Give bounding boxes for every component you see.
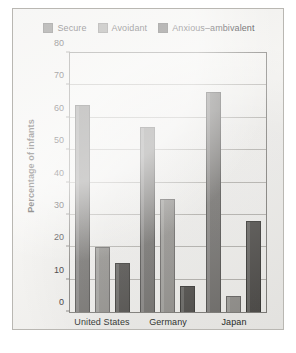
x-axis-label: Germany xyxy=(135,317,201,327)
y-tick-label: 80 xyxy=(54,38,64,48)
y-tick-label: 60 xyxy=(54,103,64,113)
y-tick-label: 20 xyxy=(54,232,64,242)
y-tick-label: 0 xyxy=(59,297,64,307)
legend-label-anxious-ambivalent: Anxious–ambivalent xyxy=(172,23,254,33)
bar xyxy=(206,92,221,312)
legend-swatch-secure xyxy=(43,23,53,33)
legend-swatch-avoidant xyxy=(98,23,108,33)
legend-swatch-anxious-ambivalent xyxy=(158,23,168,33)
chart-legend: Secure Avoidant Anxious–ambivalent xyxy=(13,23,285,33)
legend-label-avoidant: Avoidant xyxy=(112,23,148,33)
bar xyxy=(75,105,90,312)
chart-figure: Secure Avoidant Anxious–ambivalent Perce… xyxy=(12,8,284,330)
x-axis-label: Japan xyxy=(201,317,267,327)
plot-area: 01020304050607080 xyxy=(69,52,267,313)
bar-group xyxy=(70,53,135,312)
legend-item-avoidant: Avoidant xyxy=(98,23,148,33)
x-axis-labels: United StatesGermanyJapan xyxy=(69,317,267,327)
y-tick-label: 30 xyxy=(54,200,64,210)
bar xyxy=(95,247,110,312)
bar-group xyxy=(135,53,200,312)
legend-item-secure: Secure xyxy=(43,23,86,33)
bar xyxy=(115,263,130,312)
legend-item-anxious-ambivalent: Anxious–ambivalent xyxy=(158,23,254,33)
bar-groups xyxy=(70,53,266,312)
bar xyxy=(226,296,241,312)
bar-group xyxy=(201,53,266,312)
x-axis-label: United States xyxy=(69,317,135,327)
y-tick-label: 10 xyxy=(54,265,64,275)
y-tick-label: 50 xyxy=(54,135,64,145)
bar xyxy=(246,221,261,312)
bar xyxy=(160,199,175,312)
bar xyxy=(140,127,155,312)
y-tick-label: 40 xyxy=(54,168,64,178)
y-axis-title: Percentage of infants xyxy=(26,86,36,246)
y-tick-label: 70 xyxy=(54,70,64,80)
legend-label-secure: Secure xyxy=(57,23,86,33)
bar xyxy=(180,286,195,312)
